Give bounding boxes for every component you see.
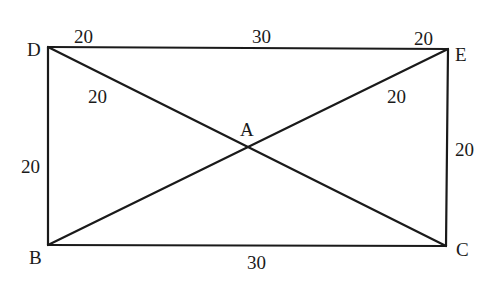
measure-top-right: 20 (414, 29, 433, 48)
diagonal-BE (48, 49, 448, 245)
point-label-D: D (27, 40, 41, 59)
measure-right-side: 20 (455, 140, 474, 159)
measure-diag-left: 20 (88, 87, 107, 106)
measure-bottom: 30 (247, 253, 266, 272)
point-label-E: E (455, 45, 467, 64)
measure-left-side: 20 (21, 157, 40, 176)
point-label-B: B (29, 248, 42, 267)
measure-diag-right: 20 (387, 87, 406, 106)
point-label-C: C (456, 240, 469, 259)
measure-top-middle: 30 (252, 27, 271, 46)
measure-top-left: 20 (74, 27, 93, 46)
edge-EC (446, 49, 448, 246)
edge-DE (48, 47, 448, 49)
point-label-A: A (240, 120, 254, 139)
edge-CB (48, 245, 446, 246)
